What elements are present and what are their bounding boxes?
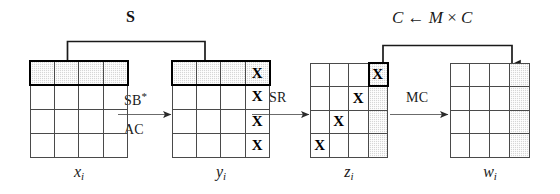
state-label-x-text: x xyxy=(74,163,81,180)
state-grid-x xyxy=(30,61,128,158)
cell-z-1-2: X xyxy=(349,87,369,111)
cell-w-1-2 xyxy=(490,87,510,111)
cell-x-2-0 xyxy=(30,110,55,134)
cell-x-3-3 xyxy=(104,134,129,158)
cell-y-0-1 xyxy=(197,61,222,85)
mc-rhs: C xyxy=(461,8,472,27)
state-label-x: xi xyxy=(30,163,128,182)
state-label-w-text: w xyxy=(483,163,494,180)
cell-y-3-3: X xyxy=(246,134,271,158)
state-grid-y: X X X X xyxy=(172,61,270,158)
cell-y-3-2 xyxy=(221,134,246,158)
state-label-y: yi xyxy=(172,163,270,182)
mc-matrix: M xyxy=(429,8,443,27)
cell-x-2-2 xyxy=(79,110,104,134)
cell-w-0-3 xyxy=(510,63,530,87)
cell-w-1-3 xyxy=(510,87,530,111)
cell-z-3-2 xyxy=(349,134,369,158)
cell-z-1-0 xyxy=(310,87,330,111)
cell-w-2-3 xyxy=(510,111,530,135)
cell-z-1-3 xyxy=(369,87,389,111)
figure-canvas: S C ← M × C SB* AC SR MC xi xyxy=(0,0,560,194)
cell-w-1-0 xyxy=(450,87,470,111)
mc-lhs: C xyxy=(392,8,403,27)
cell-w-3-0 xyxy=(450,134,470,158)
cell-x-1-3 xyxy=(104,85,129,109)
bracket-label-s: S xyxy=(126,8,135,26)
cell-z-2-0 xyxy=(310,111,330,135)
cell-w-0-2 xyxy=(490,63,510,87)
cell-x-3-0 xyxy=(30,134,55,158)
cell-z-1-1 xyxy=(330,87,350,111)
state-label-z-sub: i xyxy=(351,170,354,182)
cell-z-2-1: X xyxy=(330,111,350,135)
op-label-mixcolumns: MC xyxy=(406,90,428,106)
cell-x-3-1 xyxy=(55,134,80,158)
cell-z-0-3: X xyxy=(369,63,389,87)
cell-w-3-2 xyxy=(490,134,510,158)
cell-x-1-0 xyxy=(30,85,55,109)
state-label-z: zi xyxy=(310,163,388,182)
op-label-shiftrows: SR xyxy=(269,90,287,106)
cell-z-0-0 xyxy=(310,63,330,87)
state-grid-z: X X X X xyxy=(310,63,388,158)
cell-z-2-2 xyxy=(349,111,369,135)
cell-x-2-1 xyxy=(55,110,80,134)
cell-y-2-2 xyxy=(221,110,246,134)
cell-y-0-3: X xyxy=(246,61,271,85)
bracket-label-mixcolumns: C ← M × C xyxy=(392,8,472,28)
cell-x-0-0 xyxy=(30,61,55,85)
cell-y-3-0 xyxy=(172,134,197,158)
state-label-w: wi xyxy=(450,163,530,182)
cell-y-1-0 xyxy=(172,85,197,109)
cell-x-1-2 xyxy=(79,85,104,109)
cell-x-0-2 xyxy=(79,61,104,85)
cell-w-1-1 xyxy=(470,87,490,111)
cell-y-1-3: X xyxy=(246,85,271,109)
cell-x-1-1 xyxy=(55,85,80,109)
cell-w-3-1 xyxy=(470,134,490,158)
cell-y-2-3: X xyxy=(246,110,271,134)
cell-x-3-2 xyxy=(79,134,104,158)
cell-w-2-1 xyxy=(470,111,490,135)
state-label-x-sub: i xyxy=(81,170,84,182)
cell-y-2-1 xyxy=(197,110,222,134)
cell-w-3-3 xyxy=(510,134,530,158)
state-grid-w xyxy=(450,63,530,158)
cell-y-2-0 xyxy=(172,110,197,134)
state-label-y-text: y xyxy=(216,163,223,180)
cell-w-2-2 xyxy=(490,111,510,135)
op-sb-star: * xyxy=(142,90,148,102)
cell-x-0-1 xyxy=(55,61,80,85)
mc-assign-arrow-icon: ← xyxy=(408,8,425,27)
cell-z-3-0: X xyxy=(310,134,330,158)
cell-x-0-3 xyxy=(104,61,129,85)
cell-w-0-1 xyxy=(470,63,490,87)
cell-w-2-0 xyxy=(450,111,470,135)
cell-y-1-2 xyxy=(221,85,246,109)
cell-z-0-2 xyxy=(349,63,369,87)
cell-z-0-1 xyxy=(330,63,350,87)
cell-z-2-3 xyxy=(369,111,389,135)
cell-z-3-3 xyxy=(369,134,389,158)
cell-x-2-3 xyxy=(104,110,129,134)
cell-z-3-1 xyxy=(330,134,350,158)
mc-times-icon: × xyxy=(447,8,457,27)
cell-y-3-1 xyxy=(197,134,222,158)
cell-y-1-1 xyxy=(197,85,222,109)
cell-y-0-2 xyxy=(221,61,246,85)
state-label-w-sub: i xyxy=(494,170,497,182)
state-label-y-sub: i xyxy=(223,170,226,182)
cell-y-0-0 xyxy=(172,61,197,85)
cell-w-0-0 xyxy=(450,63,470,87)
